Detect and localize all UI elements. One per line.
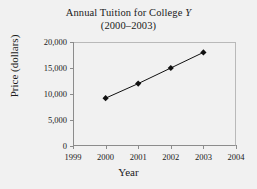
data-point-marker bbox=[168, 65, 174, 71]
y-axis-tick-label: 10,000 bbox=[44, 89, 67, 99]
plot-area: 05,00010,00015,00020,000 199920002001200… bbox=[73, 42, 236, 146]
x-axis-tick-label: 2000 bbox=[97, 152, 114, 162]
x-axis-tick-label: 2003 bbox=[195, 152, 212, 162]
x-axis-tick-label: 1999 bbox=[65, 152, 82, 162]
chart-title: Annual Tuition for College Y (2000–2003) bbox=[0, 6, 257, 32]
data-point-marker bbox=[103, 95, 109, 101]
chart-title-text: Annual Tuition for College bbox=[66, 7, 185, 18]
x-axis-title: Year bbox=[0, 166, 257, 178]
data-point-marker bbox=[200, 49, 206, 55]
chart-title-college-label: Y bbox=[185, 7, 191, 18]
y-axis-tick-label: 20,000 bbox=[44, 37, 67, 47]
data-series-layer bbox=[73, 42, 236, 146]
data-point-marker bbox=[135, 81, 141, 87]
y-axis-title: Price (dollars) bbox=[8, 11, 20, 121]
y-axis-tick-label: 0 bbox=[63, 141, 67, 151]
y-axis-tick-label: 5,000 bbox=[48, 115, 67, 125]
y-axis-tick-label: 15,000 bbox=[44, 63, 67, 73]
x-axis-tick-label: 2002 bbox=[162, 152, 179, 162]
chart-title-line1: Annual Tuition for College Y bbox=[66, 7, 191, 18]
x-axis-tick-label: 2001 bbox=[130, 152, 147, 162]
chart-figure: Annual Tuition for College Y (2000–2003)… bbox=[0, 0, 257, 189]
tuition-line bbox=[106, 52, 204, 98]
chart-subtitle: (2000–2003) bbox=[0, 19, 257, 32]
x-axis-tick-label: 2004 bbox=[228, 152, 245, 162]
x-axis-tick bbox=[236, 145, 237, 149]
